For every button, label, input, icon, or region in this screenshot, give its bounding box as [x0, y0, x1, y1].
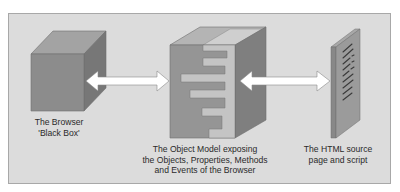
browser-label-line2: 'Black Box': [24, 128, 94, 139]
object-model-label-line3: and Events of the Browser: [135, 165, 275, 176]
html-source-label-line1: The HTML source: [298, 144, 378, 155]
browser-label-line1: The Browser: [24, 117, 94, 128]
html-page-icon: [331, 29, 360, 138]
html-source-label-line2: page and script: [298, 155, 378, 166]
browser-cube-icon: [31, 31, 106, 111]
object-model-label-line1: The Object Model exposing: [135, 144, 275, 155]
object-model-label: The Object Model exposing the Objects, P…: [135, 144, 275, 176]
object-model-label-line2: the Objects, Properties, Methods: [135, 155, 275, 166]
browser-label: The Browser 'Black Box': [24, 117, 94, 138]
html-source-label: The HTML source page and script: [298, 144, 378, 165]
